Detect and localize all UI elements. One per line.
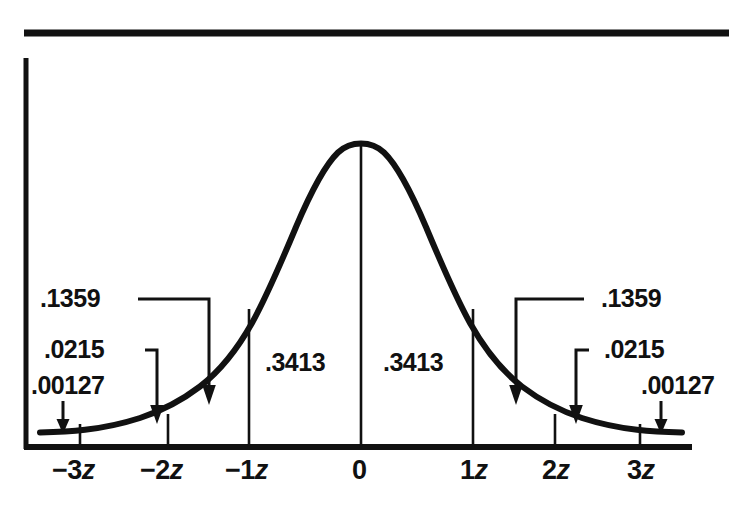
tick-neg3-number: −3	[52, 455, 82, 485]
tick-pos1-z: z	[475, 455, 488, 485]
tick-label-zero: 0	[352, 455, 367, 486]
label-right-00127: .00127	[641, 371, 714, 400]
callout-right-0215	[569, 350, 589, 424]
label-left-0215: .0215	[44, 335, 104, 364]
tick-label-neg1z: −1z	[225, 455, 268, 486]
label-left-00127: .00127	[31, 371, 104, 400]
callout-right-1359	[509, 299, 584, 405]
tick-label-pos1z: 1z	[460, 455, 488, 486]
distribution-chart-svg	[0, 0, 753, 513]
label-right-0215: .0215	[604, 335, 664, 364]
tick-pos2-number: 2	[542, 455, 557, 485]
tick-pos3-number: 3	[627, 455, 642, 485]
tick-label-pos3z: 3z	[627, 455, 655, 486]
normal-distribution-figure: .1359 .0215 .00127 .3413 .3413 .1359 .02…	[0, 0, 753, 513]
tick-pos3-z: z	[642, 455, 655, 485]
tick-neg2-number: −2	[140, 455, 170, 485]
label-left-1359: .1359	[40, 284, 100, 313]
tick-pos1-number: 1	[460, 455, 475, 485]
tick-neg2-z: z	[170, 455, 183, 485]
tick-label-neg2z: −2z	[140, 455, 183, 486]
tick-neg1-number: −1	[225, 455, 255, 485]
label-center-left-3413: .3413	[265, 348, 325, 377]
label-right-1359: .1359	[601, 284, 661, 313]
label-center-right-3413: .3413	[383, 348, 443, 377]
tick-neg3-z: z	[82, 455, 95, 485]
tick-neg1-z: z	[255, 455, 268, 485]
callout-left-1359	[138, 299, 216, 405]
tick-pos2-z: z	[557, 455, 570, 485]
tick-label-neg3z: −3z	[52, 455, 95, 486]
tick-label-pos2z: 2z	[542, 455, 570, 486]
